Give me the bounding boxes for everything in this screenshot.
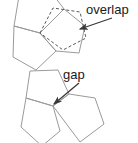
overlap-arrow (80, 18, 112, 29)
overlap-label: overlap (86, 2, 129, 17)
gap-annotation: gap (54, 67, 85, 104)
overlap-figure (13, 0, 86, 70)
overlap-annotation: overlap (80, 2, 129, 29)
right-solid-pentagon (40, 9, 85, 53)
diagram-canvas: overlap gap (0, 0, 138, 143)
gap-label: gap (63, 67, 85, 82)
gap-arrow (54, 83, 79, 104)
bottom-pentagon (13, 26, 56, 70)
overlap-dashed-pentagon (40, 8, 86, 50)
right-pentagon (53, 94, 104, 142)
pentagon-tiling-diagram: overlap gap (0, 0, 138, 143)
